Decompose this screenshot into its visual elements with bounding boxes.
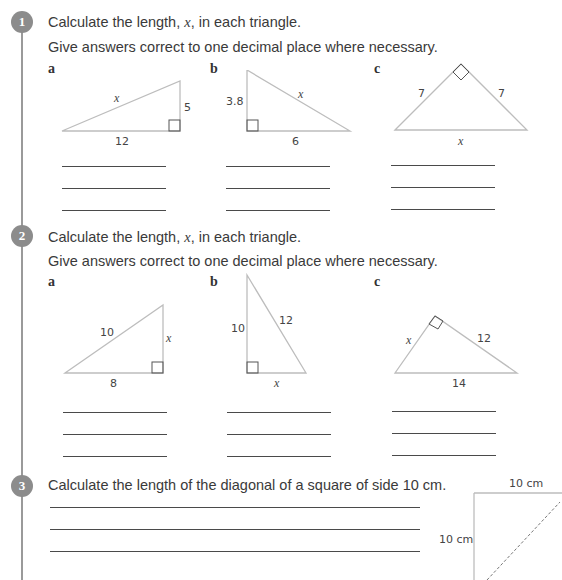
q2a-answer-line-2[interactable] — [63, 434, 167, 435]
svg-text:7: 7 — [498, 87, 505, 100]
q1c-answer-line-2[interactable] — [391, 187, 495, 188]
svg-text:10: 10 — [231, 322, 245, 335]
svg-text:x: x — [113, 91, 120, 105]
svg-text:8: 8 — [110, 377, 117, 390]
svg-text:x: x — [297, 87, 304, 101]
square-diagram: 10 cm 10 cm — [430, 470, 562, 580]
instruction-text: , in each triangle. — [191, 14, 301, 30]
question-1-precision-note: Give answers correct to one decimal plac… — [48, 39, 438, 55]
svg-text:10 cm: 10 cm — [439, 533, 473, 546]
q1c-answer-line-3[interactable] — [391, 209, 495, 210]
svg-text:14: 14 — [452, 377, 466, 390]
svg-text:6: 6 — [292, 135, 299, 148]
q1b-answer-line-2[interactable] — [226, 188, 330, 189]
svg-text:7: 7 — [418, 87, 425, 100]
q3-answer-line-2[interactable] — [50, 529, 420, 530]
question-1-instruction: Calculate the length, x, in each triangl… — [48, 14, 301, 31]
q2c-answer-line-3[interactable] — [392, 455, 496, 456]
q2c-answer-line-2[interactable] — [392, 433, 496, 434]
q1c-triangle-diagram: 7 7 x — [370, 55, 550, 155]
svg-text:x: x — [405, 333, 412, 347]
instruction-text: Calculate the length, — [48, 14, 184, 30]
q1b-answer-line-3[interactable] — [226, 210, 330, 211]
q2c-answer-line-1[interactable] — [392, 411, 496, 412]
q3-answer-line-1[interactable] — [50, 507, 420, 508]
svg-text:3.8: 3.8 — [226, 95, 244, 108]
q1a-triangle-diagram: x 5 12 — [40, 70, 220, 150]
q1a-answer-line-3[interactable] — [62, 210, 166, 211]
q2a-triangle-diagram: 10 x 8 — [40, 265, 200, 395]
question-3-badge: 3 — [11, 475, 33, 497]
question-1-badge: 1 — [11, 11, 33, 33]
svg-text:10 cm: 10 cm — [509, 477, 543, 490]
q1a-answer-line-1[interactable] — [62, 166, 166, 167]
q1a-answer-line-2[interactable] — [62, 188, 166, 189]
q2b-answer-line-2[interactable] — [227, 434, 331, 435]
q2a-answer-line-3[interactable] — [63, 456, 167, 457]
question-2-instruction: Calculate the length, x, in each triangl… — [48, 229, 301, 246]
instruction-text: Calculate the length, — [48, 229, 184, 245]
q2b-answer-line-3[interactable] — [227, 456, 331, 457]
svg-text:x: x — [165, 331, 172, 345]
question-3-instruction: Calculate the length of the diagonal of … — [48, 477, 446, 493]
instruction-text: , in each triangle. — [191, 229, 301, 245]
svg-text:12: 12 — [477, 332, 491, 345]
svg-text:12: 12 — [115, 135, 129, 148]
q2b-answer-line-1[interactable] — [227, 412, 331, 413]
q2a-answer-line-1[interactable] — [63, 412, 167, 413]
q1c-answer-line-1[interactable] — [391, 165, 495, 166]
svg-text:x: x — [273, 376, 280, 390]
svg-text:x: x — [457, 134, 464, 148]
svg-text:5: 5 — [184, 101, 191, 114]
svg-text:10: 10 — [100, 326, 114, 339]
svg-text:12: 12 — [279, 314, 293, 327]
question-2-badge: 2 — [11, 225, 33, 247]
q2b-triangle-diagram: 10 12 x — [205, 265, 365, 395]
q3-answer-line-3[interactable] — [50, 551, 420, 552]
q1b-answer-line-1[interactable] — [226, 166, 330, 167]
q1b-triangle-diagram: 3.8 x 6 — [205, 70, 365, 150]
q2c-triangle-diagram: x 12 14 — [370, 265, 550, 395]
